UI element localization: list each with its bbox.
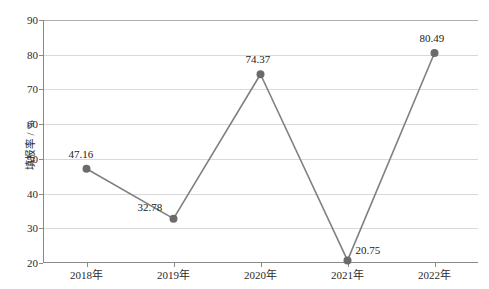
data-point-label-4: 80.49 [420,33,445,44]
y-tick-label-70: 70 [27,84,38,95]
x-tick-label-3: 2021年 [331,270,364,281]
y-tick-label-90: 90 [27,15,38,26]
plot-area: 2030405060708090 2018年2019年2020年2021年202… [43,20,478,263]
line-chart-figure: 填报率 / % 2030405060708090 2018年2019年2020年… [0,0,489,289]
x-tick-mark-0 [87,263,88,267]
x-tick-label-1: 2019年 [157,270,190,281]
data-point-marker-0 [83,165,91,173]
data-point-marker-4 [431,49,439,57]
y-tick-label-80: 80 [27,49,38,60]
x-tick-label-4: 2022年 [418,270,451,281]
data-point-marker-1 [170,215,178,223]
data-point-label-2: 74.37 [246,54,271,65]
y-tick-label-40: 40 [27,188,38,199]
data-point-marker-2 [257,70,265,78]
data-point-label-1: 32.78 [138,202,163,213]
y-tick-label-20: 20 [27,258,38,269]
x-tick-mark-1 [174,263,175,267]
x-tick-label-0: 2018年 [70,270,103,281]
data-point-marker-3 [344,256,352,264]
y-tick-label-50: 50 [27,153,38,164]
y-tick-mark-20 [39,263,43,264]
data-point-label-3: 20.75 [356,245,381,256]
data-point-label-0: 47.16 [69,149,94,160]
x-tick-mark-4 [435,263,436,267]
x-tick-mark-2 [261,263,262,267]
y-tick-label-30: 30 [27,223,38,234]
x-tick-label-2: 2020年 [244,270,277,281]
y-tick-label-60: 60 [27,119,38,130]
series-line [87,53,435,260]
